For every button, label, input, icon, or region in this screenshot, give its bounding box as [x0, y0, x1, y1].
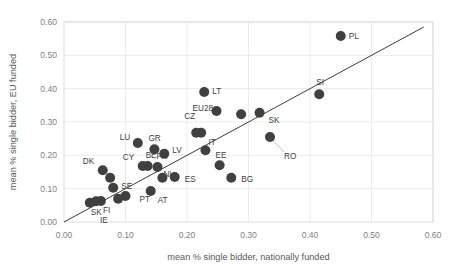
- y-tick-label: 0.50: [40, 50, 57, 60]
- data-point: [105, 173, 115, 183]
- x-tick-label: 0.40: [302, 230, 319, 240]
- data-point: [212, 106, 222, 116]
- y-tick-label: 0.40: [40, 84, 57, 94]
- data-point: [196, 128, 206, 138]
- data-point-label: BE: [146, 151, 157, 160]
- data-point: [265, 132, 275, 142]
- x-tick-label: 0.00: [56, 230, 73, 240]
- y-axis-tick-labels: 0.000.100.200.300.400.500.60: [40, 17, 57, 227]
- data-point-label: PL: [349, 32, 359, 41]
- data-point-label: EE: [216, 151, 227, 160]
- x-tick-label: 0.50: [363, 230, 380, 240]
- data-point: [98, 165, 108, 175]
- x-tick-label: 0.20: [179, 230, 196, 240]
- data-point: [96, 196, 106, 206]
- data-point: [255, 108, 265, 118]
- x-axis-tick-labels: 0.000.100.200.300.400.500.60: [56, 230, 442, 240]
- data-point-label: NL: [163, 170, 174, 179]
- y-tick-label: 0.30: [40, 117, 57, 127]
- data-point-label: BG: [241, 175, 253, 184]
- data-point-label: ES: [185, 175, 196, 184]
- y-tick-label: 0.10: [40, 184, 57, 194]
- data-point-label: LT: [212, 87, 221, 96]
- data-point: [314, 89, 324, 99]
- scatter-plot-figure: 0.000.100.200.300.400.500.600.000.100.20…: [0, 0, 458, 276]
- data-point-label: EU28: [193, 104, 214, 113]
- x-axis-title: mean % single bidder, nationally funded: [167, 252, 329, 262]
- x-tick-label: 0.30: [240, 230, 257, 240]
- data-point: [226, 173, 236, 183]
- data-point: [199, 87, 209, 97]
- data-point-label: AT: [158, 196, 168, 205]
- data-point-label: GR: [148, 134, 160, 143]
- data-point-label: SI: [316, 78, 324, 87]
- data-point-label: FR: [156, 152, 167, 161]
- data-point: [143, 161, 153, 171]
- chart-canvas: 0.000.100.200.300.400.500.600.000.100.20…: [0, 0, 458, 276]
- data-point: [336, 31, 346, 41]
- y-tick-label: 0.20: [40, 150, 57, 160]
- y-axis-title: mean % single bidder, EU funded: [8, 54, 18, 190]
- y-tick-label: 0.60: [40, 17, 57, 27]
- data-point-label: CY: [123, 153, 135, 162]
- x-tick-label: 0.10: [117, 230, 134, 240]
- y-tick-label: 0.00: [40, 217, 57, 227]
- data-point-label: RO: [284, 152, 296, 161]
- data-point-label: FI: [103, 206, 110, 215]
- data-point: [236, 109, 246, 119]
- data-point-label: LV: [172, 146, 182, 155]
- data-point-label: SE: [121, 182, 132, 191]
- data-point-label: PT: [140, 195, 150, 204]
- data-point: [152, 162, 162, 172]
- data-point: [121, 191, 131, 201]
- data-point-label: IT: [208, 138, 215, 147]
- data-point: [133, 138, 143, 148]
- data-point-label: SK: [269, 116, 280, 125]
- x-tick-label: 0.60: [425, 230, 442, 240]
- data-point-label: LU: [120, 133, 131, 142]
- data-point-label: CZ: [184, 112, 195, 121]
- reference-line-45deg: [64, 27, 424, 222]
- data-point-label: IE: [100, 216, 108, 225]
- data-point: [215, 160, 225, 170]
- data-point-label: DK: [83, 157, 95, 166]
- data-point: [108, 183, 118, 193]
